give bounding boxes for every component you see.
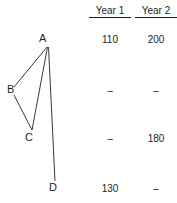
table-cell-d-year1: 130 bbox=[89, 183, 131, 194]
column-header-year-2: Year 2 bbox=[135, 5, 177, 18]
table-cell-b-year2: – bbox=[135, 85, 177, 96]
graph-edges bbox=[0, 0, 88, 203]
edge-a-b bbox=[14, 47, 47, 87]
diagram-screenshot: A B C D Year 1 Year 2 110 200 – – – 180 … bbox=[0, 0, 177, 203]
table-cell-c-year2: 180 bbox=[135, 133, 177, 144]
column-header-year-1: Year 1 bbox=[89, 5, 131, 18]
node-link-diagram: A B C D bbox=[0, 0, 88, 203]
edge-a-d bbox=[49, 47, 56, 181]
year-values-table: Year 1 Year 2 110 200 – – – 180 130 – bbox=[88, 0, 177, 203]
table-cell-c-year1: – bbox=[89, 133, 131, 144]
node-label-d: D bbox=[49, 182, 57, 193]
node-label-c: C bbox=[25, 132, 33, 143]
edge-b-c bbox=[14, 95, 32, 130]
node-label-b: B bbox=[7, 84, 14, 95]
edge-a-c bbox=[32, 47, 48, 130]
table-cell-d-year2: – bbox=[135, 183, 177, 194]
node-label-a: A bbox=[39, 33, 46, 44]
table-cell-a-year2: 200 bbox=[135, 34, 177, 45]
table-cell-a-year1: 110 bbox=[89, 34, 131, 45]
table-cell-b-year1: – bbox=[89, 85, 131, 96]
